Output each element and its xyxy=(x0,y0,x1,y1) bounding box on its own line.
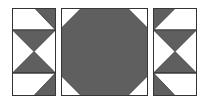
left-tile xyxy=(13,9,56,96)
octagon xyxy=(62,9,148,96)
quilt-diagram xyxy=(0,0,209,103)
center-tile xyxy=(62,9,148,96)
right-tile xyxy=(154,9,197,96)
